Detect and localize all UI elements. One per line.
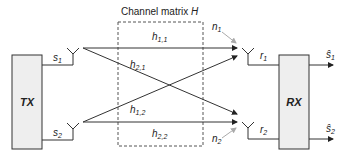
output-label-s2hat: ŝ2 — [326, 123, 335, 135]
tx-label: TX — [20, 96, 35, 108]
noise-arrow-1 — [222, 32, 236, 43]
channel-label-h12: h1,2 — [130, 104, 145, 116]
path-h12 — [83, 56, 237, 122]
rx-antenna-2-icon — [242, 122, 254, 128]
mimo-diagram: Channel matrix H TX RX s1 s2 h1,1 h2,1 h… — [0, 0, 350, 157]
channel-label-h11: h1,1 — [152, 31, 167, 43]
noise-label-n1: n1 — [212, 21, 222, 33]
noise-arrow-2 — [222, 128, 236, 138]
received-label-r1: r1 — [260, 50, 267, 62]
input-label-s1: s1 — [53, 52, 62, 64]
channel-matrix-title: Channel matrix H — [121, 6, 199, 17]
input-label-s2: s2 — [53, 127, 62, 139]
channel-label-h22: h2,2 — [152, 128, 167, 140]
output-label-s1hat: ŝ1 — [326, 49, 335, 61]
rx-label: RX — [286, 96, 302, 108]
noise-label-n2: n2 — [212, 133, 222, 145]
tx-antenna-1-icon — [67, 48, 79, 54]
tx-antenna-2-icon — [67, 123, 79, 129]
channel-label-h21: h2,1 — [130, 59, 145, 71]
path-h21 — [83, 48, 237, 114]
received-label-r2: r2 — [260, 124, 267, 136]
rx-antenna-1-icon — [242, 48, 254, 54]
